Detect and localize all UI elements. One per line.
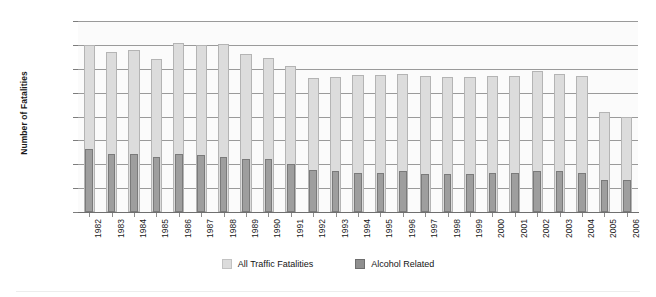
x-tick-label-1999: 1999 [474,219,484,238]
x-tick-label-1994: 1994 [362,219,372,238]
bar-alcohol-related [511,173,519,212]
x-tick-label-1993: 1993 [340,219,350,238]
x-tick-mark [604,213,605,217]
x-tick-label-2001: 2001 [519,219,529,238]
plot-area [78,21,638,212]
x-tick-label-2006: 2006 [631,219,641,238]
bar-alcohol-related [85,149,93,212]
bar-alcohol-related [309,170,317,212]
bar-group [487,21,498,212]
x-tick-mark [112,213,113,217]
x-tick-label-1992: 1992 [317,219,327,238]
x-tick-label-2005: 2005 [608,219,618,238]
bar-group [285,21,296,212]
y-axis-title: Number of Fatalities [19,33,29,193]
bar-group [532,21,543,212]
bar-group [308,21,319,212]
legend-swatch-total-icon [222,259,232,269]
bottom-divider [16,291,640,292]
x-tick-label-1986: 1986 [183,219,193,238]
bar-alcohol-related [265,159,273,212]
x-tick-mark [179,213,180,217]
bar-group [240,21,251,212]
bar-alcohol-related [153,157,161,212]
bar-alcohol-related [533,171,541,212]
legend-label-all-traffic-fatalities: All Traffic Fatalities [238,259,313,269]
x-tick-label-2003: 2003 [564,219,574,238]
bar-group [352,21,363,212]
bar-alcohol-related [421,174,429,212]
x-tick-mark [291,213,292,217]
bar-group [420,21,431,212]
bar-alcohol-related [377,173,385,212]
bar-group [106,21,117,212]
bar-group [375,21,386,212]
x-tick-mark [627,213,628,217]
bar-alcohol-related [556,171,564,212]
x-tick-mark [246,213,247,217]
bar-group [509,21,520,212]
x-tick-label-1995: 1995 [384,219,394,238]
x-tick-label-1991: 1991 [295,219,305,238]
bar-alcohol-related [444,174,452,212]
bar-group [218,21,229,212]
bar-alcohol-related [220,157,228,212]
bar-group [330,21,341,212]
bar-alcohol-related [130,154,138,212]
bar-alcohol-related [399,171,407,212]
x-tick-mark [134,213,135,217]
legend-entry-all-traffic-fatalities: All Traffic Fatalities [222,259,313,269]
traffic-fatalities-bar-chart: Number of Fatalities 010,00020,00030,000… [0,0,656,297]
x-tick-mark [313,213,314,217]
x-tick-label-1996: 1996 [407,219,417,238]
x-tick-mark [268,213,269,217]
x-tick-mark [336,213,337,217]
x-tick-mark [358,213,359,217]
bar-alcohol-related [354,173,362,212]
x-tick-mark [380,213,381,217]
x-tick-label-2004: 2004 [586,219,596,238]
x-tick-mark [156,213,157,217]
legend-label-alcohol-related: Alcohol Related [371,259,434,269]
legend-swatch-alcohol-icon [355,259,365,269]
bar-group [576,21,587,212]
x-tick-label-1987: 1987 [205,219,215,238]
x-tick-label-1985: 1985 [160,219,170,238]
bar-alcohol-related [108,154,116,212]
bar-group [151,21,162,212]
x-tick-mark [560,213,561,217]
x-tick-label-1998: 1998 [452,219,462,238]
bar-group [397,21,408,212]
legend-entry-alcohol-related: Alcohol Related [355,259,434,269]
x-tick-label-1997: 1997 [429,219,439,238]
bar-group [599,21,610,212]
bar-alcohol-related [489,173,497,212]
x-tick-label-1982: 1982 [93,219,103,238]
bar-alcohol-related [197,155,205,212]
bar-alcohol-related [175,154,183,212]
x-tick-mark [515,213,516,217]
bar-group [263,21,274,212]
x-tick-label-1983: 1983 [116,219,126,238]
bar-group [173,21,184,212]
x-tick-mark [582,213,583,217]
bar-group [84,21,95,212]
bar-group [464,21,475,212]
x-tick-label-2000: 2000 [496,219,506,238]
x-tick-label-1989: 1989 [250,219,260,238]
bar-group [442,21,453,212]
chart-legend: All Traffic Fatalities Alcohol Related [0,259,656,269]
x-tick-mark [224,213,225,217]
bar-group [196,21,207,212]
bar-alcohol-related [332,171,340,212]
bar-alcohol-related [578,173,586,212]
x-tick-mark [403,213,404,217]
bar-group [621,21,632,212]
bar-group [554,21,565,212]
x-tick-mark [492,213,493,217]
x-tick-mark [89,213,90,217]
bar-alcohol-related [601,180,609,212]
x-tick-label-1990: 1990 [272,219,282,238]
x-tick-mark [448,213,449,217]
x-tick-mark [470,213,471,217]
